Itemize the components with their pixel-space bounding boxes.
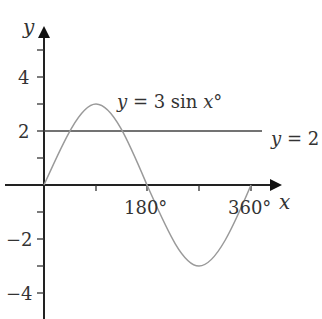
x-axis-label: x <box>279 190 290 214</box>
tick-label-4: 4 <box>18 67 29 88</box>
curve-label-eq: = 3 sin <box>127 91 203 112</box>
curve-label-x: x <box>203 91 213 112</box>
line-label-eq: = 2 <box>281 128 319 149</box>
tick-label-360: 360° <box>228 197 271 218</box>
y-axis-arrow-icon <box>38 26 50 38</box>
curve-label-deg: ° <box>213 91 222 112</box>
tick-label-neg2: −2 <box>6 229 33 250</box>
chart-canvas: y x 4 2 −2 −4 180° 360° y = 3 sin x° y =… <box>0 0 322 319</box>
y-ticks <box>37 50 44 293</box>
y-axis-label: y <box>22 15 35 39</box>
tick-label-180: 180° <box>124 197 167 218</box>
line-label: y = 2 <box>270 128 319 149</box>
tick-label-2: 2 <box>18 121 29 142</box>
tick-label-neg4: −4 <box>6 283 33 304</box>
curve-label: y = 3 sin x° <box>116 91 222 112</box>
